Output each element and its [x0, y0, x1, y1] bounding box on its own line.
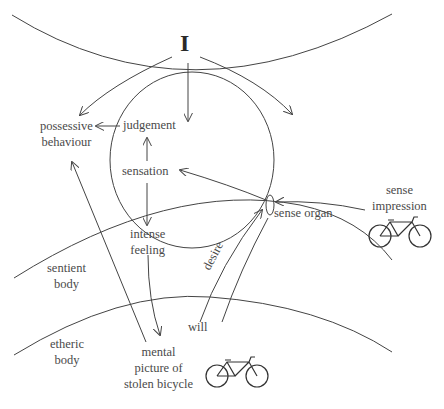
upper-boundary-curve [12, 14, 392, 70]
mental-picture-label: mental picture of stolen bicycle [124, 344, 193, 392]
sensation-label: sensation [122, 163, 169, 179]
soul-ellipse [110, 72, 274, 248]
arrow-feeling-to-mental-picture [148, 255, 160, 335]
sentient-body-label: sentient body [47, 260, 86, 292]
bicycle-icon [369, 217, 431, 247]
sense-organ-shape [266, 195, 274, 215]
sense-impression-label: sense impression [372, 182, 427, 214]
possessive-behaviour-label: possessive behaviour [40, 118, 93, 150]
bicycle-icon [206, 357, 268, 387]
etheric-body-label: etheric body [50, 336, 84, 368]
will-label: will [188, 319, 207, 335]
judgement-label: judgement [123, 117, 176, 133]
intense-feeling-label: intense feeling [130, 226, 165, 258]
arrow-i-to-possessive [80, 57, 172, 115]
self-label: I [180, 30, 189, 57]
sense-organ-label: sense organ [274, 205, 332, 221]
arrow-organ-to-sensation [180, 170, 266, 200]
soul-diagram: I judgement possessive behaviour sensati… [0, 0, 444, 409]
